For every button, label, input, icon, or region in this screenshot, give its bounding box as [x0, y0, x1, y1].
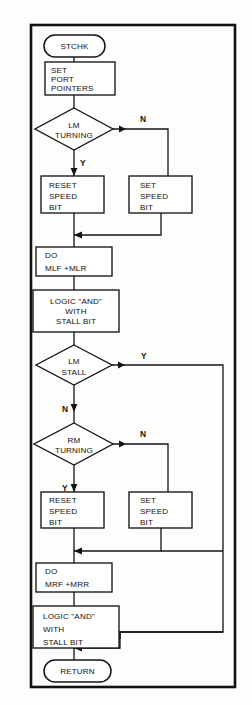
lm-stall-line-1: LM — [68, 357, 80, 366]
logic-and-2-line-1: LOGIC "AND" — [43, 612, 95, 621]
node-end: RETURN — [44, 660, 111, 682]
set-speed-bit-1-line-2: SPEED — [140, 192, 168, 201]
logic-and-1-line-1: LOGIC "AND" — [50, 297, 102, 306]
logic-and-1-line-2: WITH — [65, 307, 86, 316]
lm-stall-no-label: N — [62, 404, 68, 414]
reset-speed-bit-1-line-1: RESET — [49, 181, 77, 190]
flowchart-page: STCHK SET PORT POINTERS LM TURNING N Y R… — [0, 0, 252, 705]
flowchart-canvas: STCHK SET PORT POINTERS LM TURNING N Y R… — [0, 0, 252, 705]
reset-speed-bit-1-line-3: BIT — [49, 203, 62, 212]
do-mrf-mrr-line-2: MRF +MRR — [45, 580, 89, 589]
node-logic-and-1: LOGIC "AND" WITH STALL BIT — [33, 290, 119, 332]
rm-turning-no-label: N — [140, 429, 146, 439]
node-set-port-pointers: SET PORT POINTERS — [45, 62, 115, 95]
end-label: RETURN — [60, 667, 95, 676]
reset-speed-bit-2-line-2: SPEED — [49, 507, 77, 516]
logic-and-1-line-3: STALL BIT — [56, 317, 96, 326]
do-mrf-mrr-line-1: DO — [45, 567, 57, 576]
reset-speed-bit-1-line-2: SPEED — [49, 192, 77, 201]
lm-turning-yes-label: Y — [80, 158, 86, 168]
set-speed-bit-1-line-1: SET — [140, 181, 156, 190]
node-set-speed-bit-1: SET SPEED BIT — [129, 176, 192, 213]
node-do-mlf-mlr: DO MLF +MLR — [36, 247, 112, 276]
rm-turning-line-1: RM — [68, 436, 81, 445]
set-port-pointers-line-2: PORT — [51, 75, 74, 84]
set-port-pointers-line-3: POINTERS — [51, 84, 94, 93]
do-mlf-mlr-line-1: DO — [45, 251, 57, 260]
reset-speed-bit-2-line-3: BIT — [49, 518, 62, 527]
node-rm-turning: RM TURNING — [34, 423, 113, 465]
reset-speed-bit-2-line-1: RESET — [49, 496, 77, 505]
lm-turning-no-label: N — [140, 114, 146, 124]
do-mlf-mlr-line-2: MLF +MLR — [45, 264, 86, 273]
node-lm-turning: LM TURNING — [35, 108, 113, 150]
node-reset-speed-bit-1: RESET SPEED BIT — [41, 176, 104, 213]
lm-stall-line-2: STALL — [62, 368, 87, 377]
set-port-pointers-line-1: SET — [51, 66, 67, 75]
set-speed-bit-2-line-2: SPEED — [140, 507, 168, 516]
node-do-mrf-mrr: DO MRF +MRR — [36, 563, 112, 592]
logic-and-2-line-2: WITH — [43, 625, 64, 634]
set-speed-bit-1-line-3: BIT — [140, 203, 153, 212]
set-speed-bit-2-line-1: SET — [140, 496, 156, 505]
lm-turning-line-1: LM — [68, 121, 80, 130]
start-label: STCHK — [60, 42, 89, 51]
node-logic-and-2: LOGIC "AND" WITH STALL BIT — [33, 606, 119, 648]
node-reset-speed-bit-2: RESET SPEED BIT — [41, 492, 104, 528]
node-lm-stall: LM STALL — [36, 345, 112, 385]
logic-and-2-line-3: STALL BIT — [43, 638, 83, 647]
lm-stall-yes-label: Y — [141, 351, 147, 361]
node-set-speed-bit-2: SET SPEED BIT — [129, 492, 192, 528]
lm-turning-line-2: TURNING — [55, 131, 93, 140]
node-start: STCHK — [44, 35, 105, 57]
rm-turning-line-2: TURNING — [55, 446, 93, 455]
set-speed-bit-2-line-3: BIT — [140, 518, 153, 527]
